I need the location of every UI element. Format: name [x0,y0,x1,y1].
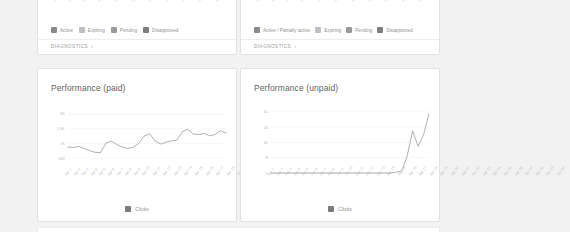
x-tick: Apr 30 [417,0,429,3]
legend-item-active-partially-active[interactable]: Active / Partially active [254,27,310,33]
legend-label: Active [60,28,73,33]
legend-swatch-icon [79,27,85,33]
legend-swatch-icon [346,27,352,33]
x-tick: Apr 30 [214,0,226,3]
legend-swatch-icon [125,206,131,212]
legend-swatch-icon [254,27,260,33]
legend-swatch-icon [328,206,334,212]
legend-item-disapproved[interactable]: Disapproved [143,27,178,33]
legend-item-pending[interactable]: Pending [346,27,372,33]
legend-item-active[interactable]: Active [51,27,73,33]
campaign-status-card-unpaid: Apr 1 Apr 4 Apr 7 Apr 10 Apr 13 Apr 16 A… [240,0,440,55]
x-tick: Apr 4 [67,0,77,3]
legend-swatch-icon [315,27,321,33]
x-tick: Apr 13 [113,0,125,3]
x-tick: Apr 13 [316,0,328,3]
x-tick: Apr 7 [81,0,91,3]
legend-item-expiring[interactable]: Expiring [315,27,341,33]
card-divider [38,39,236,40]
diagnostics-label: DIAGNOSTICS [254,44,291,49]
x-tick: Apr 1 [255,0,265,3]
x-tick: Apr 25 [383,0,395,3]
legend-label: Pending [120,28,137,33]
card-divider [241,39,439,40]
chart-legend-paid[interactable]: Clicks [38,206,236,212]
legend-label: Disapproved [386,28,412,33]
status-chart-x-axis-paid: Apr 1 Apr 4 Apr 7 Apr 10 Apr 13 Apr 16 A… [52,0,226,17]
chevron-right-icon: › [294,43,296,49]
legend-swatch-icon [111,27,117,33]
diagnostics-label: DIAGNOSTICS [51,44,88,49]
legend-label: Expiring [324,28,341,33]
campaign-status-card-paid: Apr 1 Apr 4 Apr 7 Apr 10 Apr 13 Apr 16 A… [37,0,237,55]
performance-card-unpaid: Performance (unpaid) 08162432 Apr 1Apr 2… [240,68,440,222]
y-tick-label: 8 [266,155,269,160]
legend-swatch-icon [51,27,57,33]
y-tick-label: 500 [58,156,65,161]
x-tick: Apr 22 [367,0,379,3]
chart-title: Performance (paid) [51,83,126,93]
chart-x-axis-labels-paid: Apr 1Apr 2Apr 3Apr 4Apr 5Apr 6Apr 7Apr 8… [64,174,230,198]
x-tick: Apr 28 [197,0,209,3]
x-tick: Apr 16 [333,0,345,3]
x-tick: Apr 10 [299,0,311,3]
y-tick-label: 24 [263,125,268,130]
card-below-partial [37,227,440,232]
legend-item-pending[interactable]: Pending [111,27,137,33]
y-tick-label: 16 [263,140,268,145]
legend-label: Disapproved [152,28,178,33]
series-line-clicks [271,114,429,173]
chevron-right-icon: › [91,43,93,49]
chart-y-tick-labels: 08162432 [263,109,268,175]
diagnostics-link-paid[interactable]: DIAGNOSTICS › [51,43,93,49]
legend-item-expiring[interactable]: Expiring [79,27,105,33]
legend-swatch-icon [143,27,149,33]
chart-title: Performance (unpaid) [254,83,338,93]
diagnostics-link-unpaid[interactable]: DIAGNOSTICS › [254,43,296,49]
x-tick: Apr 4 [270,0,280,3]
series-line-clicks [68,129,226,152]
status-chart-x-axis-unpaid: Apr 1 Apr 4 Apr 7 Apr 10 Apr 13 Apr 16 A… [255,0,429,17]
x-tick: Apr 7 [284,0,294,3]
legend-label: Expiring [88,28,105,33]
x-tick: Apr 1 [52,0,62,3]
legend-label: Clicks [135,206,148,212]
x-tick: Apr 19 [350,0,362,3]
chart-legend-unpaid[interactable]: Clicks [241,206,439,212]
performance-card-paid: Performance (paid) 5001K1.5K2K Apr 1Apr … [37,68,237,222]
y-tick-label: 1K [60,141,65,146]
x-tick: Apr 28 [400,0,412,3]
chart-y-tick-labels: 5001K1.5K2K [57,111,66,160]
legend-label: Active / Partially active [263,28,310,33]
status-legend-paid: Active Expiring Pending Disapproved [51,24,228,36]
legend-item-disapproved[interactable]: Disapproved [377,27,412,33]
x-tick: Apr 22 [164,0,176,3]
y-tick-label: 1.5K [57,126,65,131]
x-tick: Apr 16 [130,0,142,3]
legend-swatch-icon [377,27,383,33]
status-legend-unpaid: Active / Partially active Expiring Pendi… [254,24,431,36]
x-tick: Apr 10 [96,0,108,3]
y-tick-label: 32 [263,109,267,114]
legend-label: Pending [355,28,372,33]
x-tick: Apr 25 [180,0,192,3]
y-tick-label: 2K [60,111,65,116]
chart-x-axis-labels-unpaid: Apr 1Apr 2Apr 3Apr 4Apr 5Apr 6Apr 7Apr 8… [267,174,433,198]
x-tick: Apr 19 [147,0,159,3]
chart-gridlines [271,112,429,173]
legend-label: Clicks [338,206,351,212]
